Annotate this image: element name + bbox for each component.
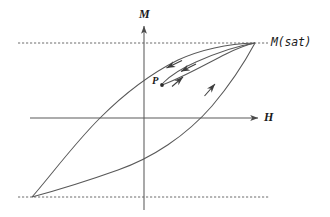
m-axis-label: M — [139, 8, 150, 20]
diagram-canvas — [0, 0, 330, 217]
minor-loop-point-marker — [160, 83, 164, 87]
arrow-ascending-up — [205, 84, 216, 96]
direction-arrows — [167, 61, 216, 97]
h-axis-label: H — [264, 111, 273, 123]
hysteresis-loop-figure: M H M(sat) P — [0, 0, 330, 217]
minor-loop-point-label: P — [152, 76, 158, 87]
saturation-label: M(sat) — [271, 37, 311, 49]
